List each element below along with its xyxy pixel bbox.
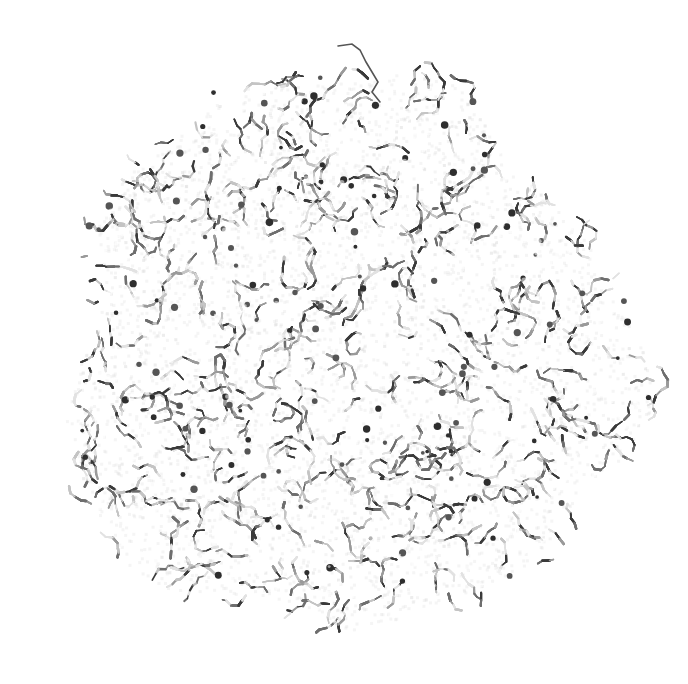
molecular-render-canvas [0,0,688,684]
molecular-cluster-image [0,0,688,684]
